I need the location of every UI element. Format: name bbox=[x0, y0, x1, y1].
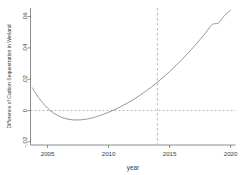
x-tick-label: 2010 bbox=[102, 150, 116, 157]
chart-figure: -.020.02.04.06 2005201020152020 year Dif… bbox=[0, 0, 241, 175]
y-axis-title: Difference of Carbon Sequestration in We… bbox=[6, 24, 12, 128]
x-tick-label: 2015 bbox=[163, 150, 177, 157]
y-tick-label: 0 bbox=[21, 108, 28, 112]
y-tick-label: -.02 bbox=[21, 136, 28, 147]
carbon-sequestration-line-chart: -.020.02.04.06 2005201020152020 year Dif… bbox=[0, 0, 241, 175]
x-axis-title: year bbox=[127, 164, 140, 172]
x-tick-label: 2020 bbox=[224, 150, 238, 157]
plot-area-background bbox=[31, 8, 236, 145]
y-tick-label: .02 bbox=[21, 74, 28, 83]
x-tick-label: 2005 bbox=[41, 150, 55, 157]
y-tick-label: .06 bbox=[21, 12, 28, 21]
y-tick-label: .04 bbox=[21, 43, 28, 52]
